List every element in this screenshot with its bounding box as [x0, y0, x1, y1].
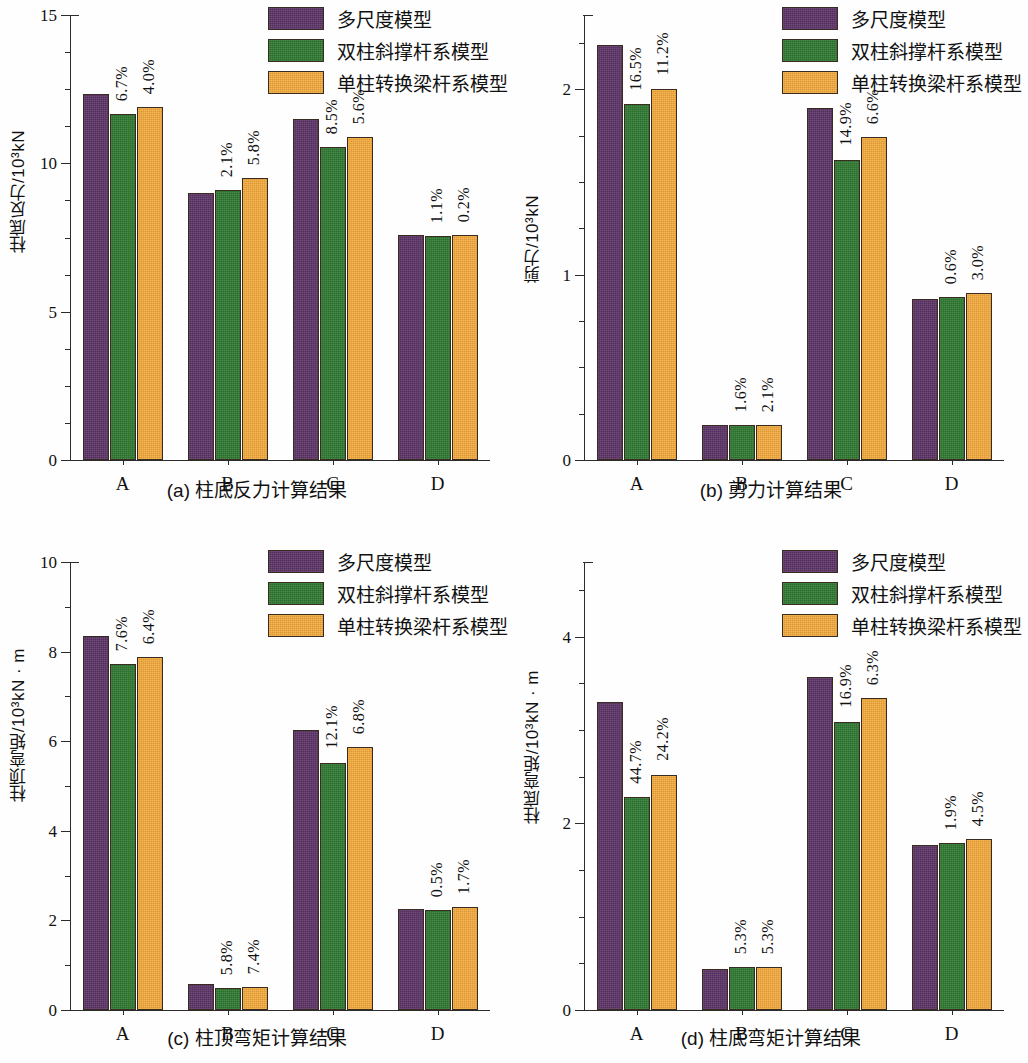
y-axis-line-c — [70, 562, 71, 1010]
y-axis-title-a: 柱底反力/10³kN — [6, 130, 31, 253]
y-minor-tick — [65, 423, 70, 424]
y-major-tick — [575, 275, 584, 276]
bar-c-D-s2 — [452, 907, 478, 1010]
bar-d-B-s2 — [756, 967, 782, 1010]
y-major-tick — [575, 460, 584, 461]
y-minor-tick — [579, 590, 584, 591]
x-tick — [847, 460, 848, 465]
x-tick — [438, 1010, 439, 1015]
y-tick-label: 8 — [49, 643, 58, 660]
bar-a-D-s1 — [425, 236, 451, 460]
bar-pct-label: 1.1% — [429, 188, 445, 223]
bar-c-B-s2 — [242, 987, 268, 1010]
y-major-tick — [61, 831, 70, 832]
y-axis-title-c: 柱顶弯矩/10³kN · m — [6, 648, 31, 802]
bar-d-A-s1 — [624, 797, 650, 1010]
legend-item-single_column_transfer[interactable]: 单柱转换梁杆系模型 — [782, 612, 1022, 638]
y-minor-tick — [579, 730, 584, 731]
legend-item-multi_scale[interactable]: 多尺度模型 — [782, 5, 1022, 31]
y-tick-label: 6 — [49, 733, 58, 750]
y-minor-tick — [65, 607, 70, 608]
bar-d-B-s1 — [729, 967, 755, 1010]
bar-b-A-s2 — [651, 89, 677, 460]
y-minor-tick — [65, 200, 70, 201]
chart-panel-c: 0246810A7.6%6.4%B5.8%7.4%C12.1%6.8%D0.5%… — [0, 520, 514, 1063]
bar-c-B-s1 — [215, 988, 241, 1010]
bar-b-B-s2 — [756, 425, 782, 460]
bar-d-C-s0 — [807, 677, 833, 1010]
bar-c-C-s0 — [293, 730, 319, 1010]
legend-swatch-icon-single_column_transfer — [782, 614, 838, 637]
legend-item-single_column_transfer[interactable]: 单柱转换梁杆系模型 — [268, 69, 508, 95]
x-tick — [742, 1010, 743, 1015]
bar-b-D-s0 — [912, 299, 938, 460]
legend-label: 双柱斜撑杆系模型 — [337, 37, 489, 64]
bar-a-D-s0 — [398, 235, 424, 460]
y-minor-tick — [579, 43, 584, 44]
legend-label: 多尺度模型 — [337, 5, 432, 32]
bar-a-B-s1 — [215, 190, 241, 460]
bar-c-A-s2 — [137, 657, 163, 1010]
legend-item-double_column_brace[interactable]: 双柱斜撑杆系模型 — [268, 37, 508, 63]
x-axis-line-d — [584, 1010, 1004, 1011]
y-axis-line-a — [70, 15, 71, 460]
y-axis-line-b — [584, 15, 585, 460]
y-tick-label: 0 — [563, 1002, 572, 1019]
legend-swatch-icon-single_column_transfer — [782, 71, 838, 94]
bar-pct-label: 12.1% — [324, 705, 340, 749]
legend-item-double_column_brace[interactable]: 双柱斜撑杆系模型 — [268, 580, 508, 606]
legend-label: 单柱转换梁杆系模型 — [337, 612, 508, 639]
x-tick — [952, 1010, 953, 1015]
y-axis-title-d: 柱底弯矩/10³kN · m — [520, 670, 545, 824]
y-tick-label: 2 — [49, 912, 58, 929]
bar-pct-label: 7.6% — [114, 616, 130, 651]
bar-pct-label: 11.2% — [655, 32, 671, 75]
legend-item-double_column_brace[interactable]: 双柱斜撑杆系模型 — [782, 37, 1022, 63]
bar-d-C-s1 — [834, 722, 860, 1010]
legend-swatch-icon-multi_scale — [782, 7, 838, 30]
chart-caption-d: (d) 柱底弯矩计算结果 — [514, 1023, 1028, 1050]
bar-b-B-s0 — [702, 425, 728, 460]
bar-b-D-s2 — [966, 293, 992, 460]
bar-a-C-s2 — [347, 137, 373, 460]
bar-pct-label: 4.0% — [141, 59, 157, 94]
legend-item-single_column_transfer[interactable]: 单柱转换梁杆系模型 — [782, 69, 1022, 95]
y-minor-tick — [579, 321, 584, 322]
bar-pct-label: 3.0% — [970, 245, 986, 280]
y-major-tick — [575, 823, 584, 824]
bar-pct-label: 0.6% — [943, 249, 959, 284]
x-tick — [847, 1010, 848, 1015]
bar-c-D-s0 — [398, 909, 424, 1010]
y-tick-label: 10 — [40, 155, 57, 172]
y-axis-top-cap-d — [583, 562, 593, 563]
x-tick — [123, 1010, 124, 1015]
y-minor-tick — [65, 965, 70, 966]
bar-a-D-s2 — [452, 235, 478, 460]
y-major-tick — [575, 89, 584, 90]
y-axis-top-cap-c — [69, 562, 79, 563]
legend-item-double_column_brace[interactable]: 双柱斜撑杆系模型 — [782, 580, 1022, 606]
bar-b-C-s0 — [807, 108, 833, 460]
y-minor-tick — [579, 367, 584, 368]
y-major-tick — [61, 1010, 70, 1011]
bar-pct-label: 1.7% — [456, 859, 472, 894]
legend-item-multi_scale[interactable]: 多尺度模型 — [268, 5, 508, 31]
legend-label: 单柱转换梁杆系模型 — [337, 69, 508, 96]
y-tick-label: 2 — [563, 81, 572, 98]
x-tick — [333, 460, 334, 465]
legend-item-single_column_transfer[interactable]: 单柱转换梁杆系模型 — [268, 612, 508, 638]
legend-c: 多尺度模型双柱斜撑杆系模型单柱转换梁杆系模型 — [268, 548, 508, 644]
legend-label: 双柱斜撑杆系模型 — [851, 37, 1003, 64]
bar-b-C-s2 — [861, 137, 887, 460]
y-tick-label: 1 — [563, 266, 572, 283]
bar-pct-label: 16.5% — [628, 47, 644, 91]
x-tick — [123, 460, 124, 465]
bar-pct-label: 5.3% — [760, 919, 776, 954]
bar-d-A-s0 — [597, 702, 623, 1010]
legend-item-multi_scale[interactable]: 多尺度模型 — [782, 548, 1022, 574]
legend-item-multi_scale[interactable]: 多尺度模型 — [268, 548, 508, 574]
bar-c-B-s0 — [188, 984, 214, 1010]
bar-pct-label: 0.5% — [429, 862, 445, 897]
bar-pct-label: 8.5% — [324, 99, 340, 134]
chart-panel-d: 024A44.7%24.2%B5.3%5.3%C16.9%6.3%D1.9%4.… — [514, 520, 1028, 1063]
